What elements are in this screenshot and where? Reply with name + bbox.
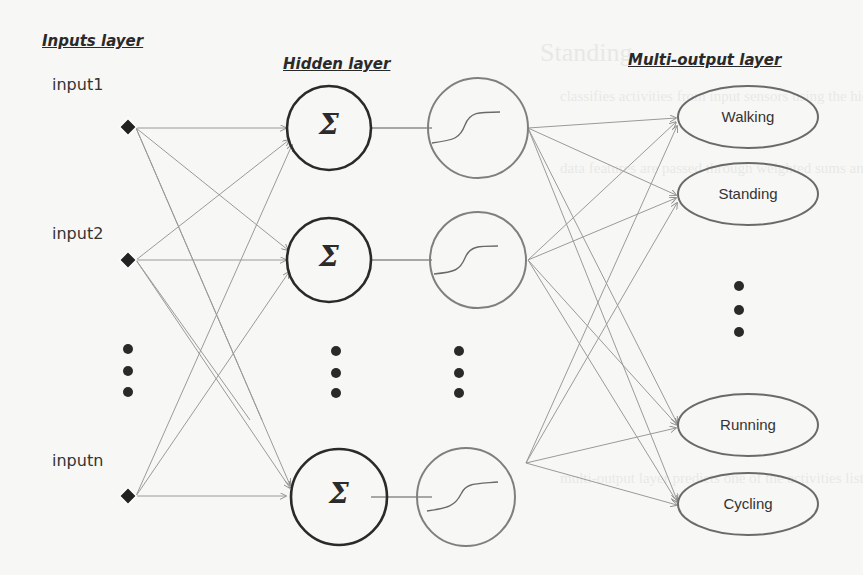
- input-node-diamond: [120, 488, 137, 505]
- hidden-layer-title: Hidden layer: [283, 55, 390, 73]
- input-label-2: input2: [52, 224, 103, 243]
- output-label-cycling: Cycling: [678, 495, 818, 512]
- activation-node: [428, 78, 528, 178]
- sigma-icon: Σ: [287, 240, 371, 273]
- input-to-hidden-edges: [136, 128, 292, 496]
- diagram-canvas: Standing classifies activities from inpu…: [0, 0, 863, 575]
- output-label-standing: Standing: [678, 185, 818, 202]
- output-nodes: [678, 86, 818, 535]
- input-nodes: [120, 119, 137, 505]
- input-node-diamond: [120, 119, 137, 136]
- output-ellipsis-dots: [734, 281, 744, 337]
- hidden-ellipsis-dots: [331, 346, 464, 398]
- sigmoid-icon: [434, 246, 498, 274]
- output-label-walking: Walking: [678, 108, 818, 125]
- output-layer-title: Multi-output layer: [628, 51, 781, 69]
- input-label-n: inputn: [52, 451, 103, 470]
- inputs-layer-title: Inputs layer: [42, 32, 143, 50]
- activation-node: [430, 212, 526, 308]
- sigmoid-icons: [427, 112, 500, 511]
- input-node-diamond: [120, 252, 137, 269]
- sigmoid-icon: [427, 482, 498, 511]
- network-graph: [0, 0, 863, 575]
- input-label-1: input1: [52, 75, 103, 94]
- sigmoid-icon: [432, 112, 500, 143]
- sigma-icon: Σ: [287, 108, 371, 141]
- sigma-icon: Σ: [297, 477, 381, 510]
- sum-to-activation-edges: [371, 128, 432, 497]
- activation-nodes: [417, 78, 528, 546]
- input-ellipsis-dots: [123, 344, 133, 397]
- output-label-running: Running: [678, 416, 818, 433]
- hidden-to-output-edges: [526, 118, 677, 505]
